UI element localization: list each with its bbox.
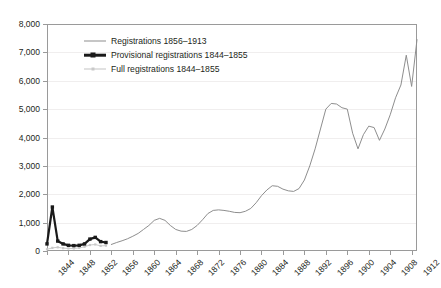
x-axis-tick-label: 1864: [164, 258, 183, 277]
x-axis-tick-mark: [133, 251, 134, 255]
y-axis-tick-label: 3,000: [0, 162, 40, 171]
x-axis-tick-mark: [176, 251, 177, 255]
x-axis-tick-mark: [111, 251, 112, 255]
x-axis-tick-label: 1852: [99, 258, 118, 277]
x-axis-tick-mark: [261, 251, 262, 255]
x-axis-tick-mark: [90, 251, 91, 255]
x-axis-tick-label: 1884: [271, 258, 290, 277]
y-axis-tick-label: 0: [0, 247, 40, 256]
legend-label: Full registrations 1844–1855: [111, 65, 219, 74]
legend-label: Provisional registrations 1844–1855: [111, 51, 248, 60]
x-axis-tick-label: 1876: [228, 258, 247, 277]
x-axis-tick-mark: [197, 251, 198, 255]
gridline: [48, 81, 416, 82]
legend-item-full-registrations: Full registrations 1844–1855: [84, 62, 248, 76]
x-axis-tick-mark: [304, 251, 305, 255]
y-axis-tick-label: 2,000: [0, 190, 40, 199]
x-axis-tick-label: 1892: [314, 258, 333, 277]
y-axis-tick-mark: [43, 223, 47, 224]
y-axis-tick-mark: [43, 109, 47, 110]
y-axis-tick-mark: [43, 24, 47, 25]
gridline: [48, 138, 416, 139]
x-axis-tick-mark: [369, 251, 370, 255]
x-axis-tick-label: 1856: [121, 258, 140, 277]
y-axis-tick-mark: [43, 194, 47, 195]
y-axis-tick-mark: [43, 138, 47, 139]
x-axis-tick-mark: [347, 251, 348, 255]
x-axis-tick-mark: [219, 251, 220, 255]
x-axis-tick-mark: [412, 251, 413, 255]
x-axis-tick-mark: [240, 251, 241, 255]
y-axis-tick-mark: [43, 81, 47, 82]
x-axis-tick-mark: [47, 251, 48, 255]
x-axis-tick-mark: [154, 251, 155, 255]
legend-item-registrations: Registrations 1856–1913: [84, 34, 248, 48]
x-axis-tick-mark: [326, 251, 327, 255]
y-axis-tick-mark: [43, 166, 47, 167]
x-axis-tick-mark: [390, 251, 391, 255]
x-axis-tick-label: 1880: [250, 258, 269, 277]
y-axis-tick-mark: [43, 52, 47, 53]
gridline: [48, 194, 416, 195]
x-axis-tick-label: 1888: [292, 258, 311, 277]
legend-label: Registrations 1856–1913: [111, 37, 207, 46]
x-axis-tick-label: 1868: [185, 258, 204, 277]
x-axis-tick-label: 1896: [335, 258, 354, 277]
x-axis-tick-label: 1912: [421, 258, 440, 277]
x-axis-tick-label: 1848: [78, 258, 97, 277]
x-axis-tick-label: 1908: [400, 258, 419, 277]
legend-item-provisional-registrations: Provisional registrations 1844–1855: [84, 48, 248, 62]
x-axis-tick-mark: [68, 251, 69, 255]
y-axis-tick-label: 7,000: [0, 48, 40, 57]
x-axis-tick-label: 1904: [378, 258, 397, 277]
x-axis-tick-label: 1860: [142, 258, 161, 277]
y-axis-tick-label: 4,000: [0, 133, 40, 142]
y-axis-tick-label: 6,000: [0, 77, 40, 86]
gridline: [48, 166, 416, 167]
y-axis-tick-label: 1,000: [0, 218, 40, 227]
y-axis-tick-label: 5,000: [0, 105, 40, 114]
gridline: [48, 223, 416, 224]
x-axis-tick-label: 1844: [57, 258, 76, 277]
legend-swatch-square-marker-icon: [84, 49, 106, 61]
x-axis-tick-mark: [283, 251, 284, 255]
y-axis-tick-label: 8,000: [0, 20, 40, 29]
chart-legend: Registrations 1856–1913 Provisional regi…: [84, 34, 248, 76]
legend-swatch-light-marker-icon: [84, 63, 106, 75]
x-axis-tick-label: 1872: [207, 258, 226, 277]
legend-swatch-line-icon: [84, 35, 106, 47]
gridline: [48, 109, 416, 110]
x-axis-tick-label: 1900: [357, 258, 376, 277]
